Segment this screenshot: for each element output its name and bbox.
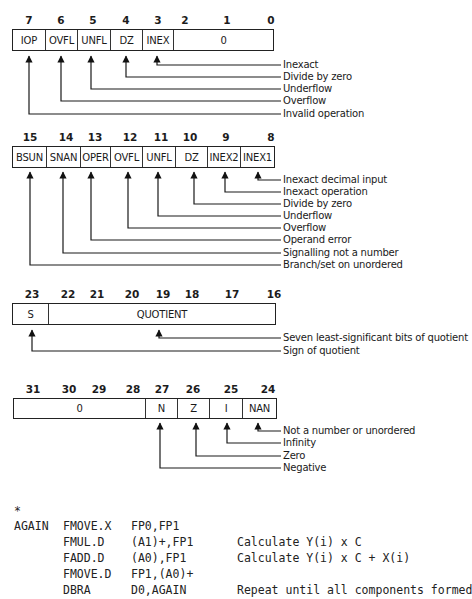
field-description: Operand error [283, 234, 351, 246]
bit-field-i: I [210, 399, 243, 418]
bit-number: 9 [216, 131, 236, 143]
bit-number: 30 [59, 383, 79, 395]
field-description: Divide by zero [283, 198, 352, 210]
bit-number: 18 [182, 288, 202, 300]
bit-field-sign: S [13, 304, 49, 324]
bit-field-unfl: UNFL [143, 147, 176, 167]
bit-number: 12 [120, 131, 140, 143]
bit-field-reserved: 0 [174, 30, 273, 50]
field-description: Not a number or unordered [283, 425, 415, 437]
field-description: Underflow [283, 210, 332, 222]
field-description: Signalling not a number [283, 247, 398, 259]
field-description: Seven least-significant bits of quotient [283, 332, 468, 344]
bit-number: 13 [85, 131, 105, 143]
bit-number: 15 [20, 131, 40, 143]
code-opcode: FMUL.D [63, 535, 105, 549]
bit-number: 24 [258, 383, 278, 395]
register-box: IOP OVFL UNFL DZ INEX 0 [12, 29, 274, 51]
bit-field-inex1: INEX1 [241, 147, 274, 167]
bit-number: 8 [261, 131, 281, 143]
bit-field-iop: IOP [13, 30, 46, 50]
bit-number: 26 [183, 383, 203, 395]
bit-field-n: N [146, 399, 178, 418]
bit-field-ovfl: OVFL [111, 147, 143, 167]
code-comment: Calculate Y(i) x C + X(i) [237, 551, 410, 565]
bit-field-z: Z [178, 399, 210, 418]
code-operands: FP0,FP1 [131, 519, 179, 533]
bit-field-bsun: BSUN [13, 147, 47, 167]
comment-marker: * [14, 504, 21, 518]
bit-field-dz: DZ [176, 147, 208, 167]
bit-number: 22 [58, 288, 78, 300]
bit-field-reserved: 0 [14, 399, 146, 418]
register-box: S QUOTIENT [12, 303, 276, 325]
bit-field-inex2: INEX2 [208, 147, 241, 167]
bit-number: 29 [89, 383, 109, 395]
field-description: Overflow [283, 222, 326, 234]
field-description: Inexact operation [283, 186, 368, 198]
bit-number: 21 [87, 288, 107, 300]
bit-number: 20 [122, 288, 142, 300]
code-opcode: FADD.D [63, 551, 105, 565]
register-box: BSUN SNAN OPER OVFL UNFL DZ INEX2 INEX1 [12, 146, 275, 168]
code-label: AGAIN [14, 519, 49, 533]
bit-number: 5 [83, 14, 103, 26]
code-comment: Calculate Y(i) x C [237, 535, 362, 549]
bit-field-dz: DZ [111, 30, 143, 50]
code-operands: (A1)+,FP1 [131, 535, 193, 549]
bit-field-quotient: QUOTIENT [49, 304, 275, 324]
bit-number: 23 [22, 288, 42, 300]
code-comment: Repeat until all components formed [237, 583, 472, 597]
bit-number: 10 [180, 131, 200, 143]
bit-number: 19 [153, 288, 173, 300]
bit-number: 0 [261, 14, 281, 26]
bit-field-snan: SNAN [47, 147, 81, 167]
field-description: Negative [283, 462, 326, 474]
field-description: Inexact [283, 59, 318, 71]
field-description: Underflow [283, 83, 332, 95]
bit-field-unfl: UNFL [78, 30, 111, 50]
bit-field-oper: OPER [81, 147, 111, 167]
field-description: Zero [283, 450, 305, 462]
bit-number: 17 [222, 288, 242, 300]
code-opcode: FMOVE.X [63, 519, 111, 533]
code-operands: FP1,(A0)+ [131, 567, 193, 581]
code-operands: D0,AGAIN [131, 583, 186, 597]
bit-number: 4 [116, 14, 136, 26]
field-description: Branch/set on unordered [283, 259, 403, 271]
bit-number: 28 [123, 383, 143, 395]
code-opcode: FMOVE.D [63, 567, 111, 581]
bit-field-inex: INEX [143, 30, 174, 50]
field-description: Sign of quotient [283, 345, 360, 357]
bit-number: 11 [151, 131, 171, 143]
bit-field-nan: NAN [243, 399, 276, 418]
field-description: Invalid operation [283, 108, 364, 120]
bit-number: 6 [51, 14, 71, 26]
field-description: Inexact decimal input [283, 174, 387, 186]
bit-number: 7 [19, 14, 39, 26]
bit-number: 3 [148, 14, 168, 26]
field-description: Divide by zero [283, 71, 352, 83]
bit-number: 14 [56, 131, 76, 143]
bit-number: 2 [175, 14, 195, 26]
field-description: Infinity [283, 437, 316, 449]
code-opcode: DBRA [63, 583, 91, 597]
bit-number: 31 [23, 383, 43, 395]
bit-number: 1 [217, 14, 237, 26]
register-box: 0 N Z I NAN [13, 398, 277, 419]
field-description: Overflow [283, 95, 326, 107]
bit-number: 25 [221, 383, 241, 395]
bit-field-ovfl: OVFL [46, 30, 78, 50]
bit-number: 16 [264, 288, 284, 300]
bit-number: 27 [152, 383, 172, 395]
code-operands: (A0),FP1 [131, 551, 186, 565]
